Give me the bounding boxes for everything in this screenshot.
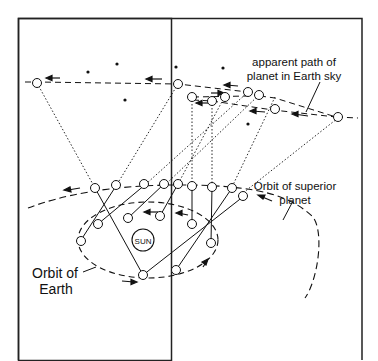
planet-positions [91, 180, 248, 201]
superior-orbit-label-line2: planet [279, 194, 311, 206]
earth-orbit-label-line1: Orbit of [32, 265, 78, 281]
sight-lines [37, 83, 338, 193]
sky-path-label-line1: apparent path of [252, 56, 337, 68]
earth-planet-lines [81, 184, 244, 275]
label-pointers [83, 82, 320, 272]
sky-path-label-line2: planet in Earth sky [247, 70, 342, 82]
superior-orbit-label-line1: Orbit of superior [254, 180, 337, 192]
retrograde-diagram: SUN apparent path of planet in Earth sky… [0, 0, 378, 361]
sun: SUN [132, 229, 154, 251]
sun-label: SUN [135, 237, 152, 246]
earth-orbit-label-line2: Earth [39, 281, 72, 297]
